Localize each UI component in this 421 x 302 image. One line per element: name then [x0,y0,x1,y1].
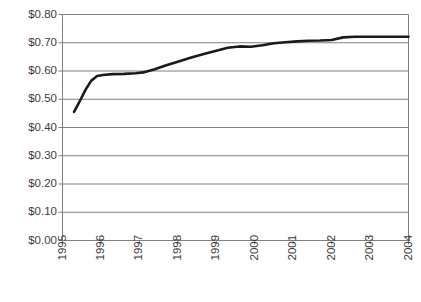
x-axis-label: 1997 [133,234,145,260]
x-axis-label: 1998 [171,234,183,260]
x-axis-label: 2000 [248,234,260,260]
x-axis-label-group: 1995199619971998199920002001200220032004 [0,0,421,302]
x-axis-label: 2001 [287,234,299,260]
x-axis-label: 1996 [94,234,106,260]
x-axis-label: 2002 [325,234,337,260]
x-axis-label: 2003 [364,234,376,260]
x-axis-label: 1995 [56,234,68,260]
price-line-chart: $0.00$0.10$0.20$0.30$0.40$0.50$0.60$0.70… [0,0,421,302]
x-axis-label: 1999 [210,234,222,260]
x-axis-label: 2004 [402,234,414,260]
